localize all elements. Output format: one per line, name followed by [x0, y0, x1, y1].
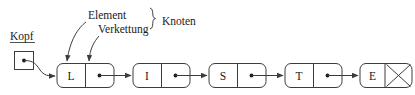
annotation-group: Element Verkettung Knoten	[67, 8, 196, 61]
annotation-arrow-verkettung	[89, 36, 99, 61]
node-value: L	[67, 70, 74, 82]
list-node: L	[57, 64, 131, 88]
annotation-label-element: Element	[88, 9, 127, 21]
node-value: E	[369, 70, 376, 82]
node-value: T	[295, 70, 302, 82]
linked-list-diagram: Kopf Element Verkettung Knoten L	[0, 0, 415, 95]
list-node: T	[285, 64, 358, 88]
node-box	[360, 64, 412, 88]
knoten-brace	[150, 8, 156, 29]
annotation-label-knoten: Knoten	[162, 15, 196, 27]
head-group: Kopf	[10, 30, 55, 76]
list-node-last: E	[360, 64, 412, 88]
annotation-label-verkettung: Verkettung	[98, 23, 149, 36]
annotation-arrow-element	[67, 22, 86, 61]
list-node: I	[133, 64, 207, 88]
node-value: I	[145, 70, 149, 82]
head-label: Kopf	[10, 30, 34, 43]
list-node: S	[209, 64, 283, 88]
node-value: S	[220, 70, 226, 82]
